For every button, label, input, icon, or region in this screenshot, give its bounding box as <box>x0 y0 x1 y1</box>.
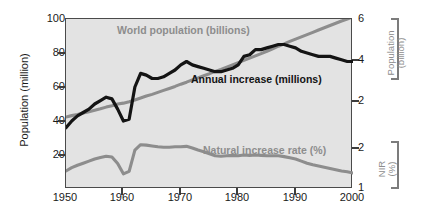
x-tick-1980: 1980 <box>214 191 260 203</box>
annotation-annual-increase: Annual increase (millions) <box>191 73 322 85</box>
right-axis-bottom-title-line2: (%) <box>386 162 397 177</box>
x-tick-1990: 1990 <box>272 191 318 203</box>
annotation-world-population: World population (billions) <box>117 24 250 36</box>
plot-area <box>65 18 352 188</box>
right-axis-bottom-title: NIR (%) <box>377 139 397 199</box>
right-axis-top-title-line2: (billion) <box>395 38 406 69</box>
x-tick-1970: 1970 <box>157 191 203 203</box>
y-tick-right-4: 4 <box>358 53 372 65</box>
y-tick-right-nir-2: 2 <box>358 141 372 153</box>
y-tick-right-6: 6 <box>358 12 372 24</box>
x-tick-1960: 1960 <box>99 191 145 203</box>
annotation-natural-increase-rate: Natural increase rate (%) <box>203 144 326 156</box>
x-tick-2000: 2000 <box>329 191 375 203</box>
y-tick-right-2: 2 <box>358 94 372 106</box>
population-growth-chart: Population (million) 100 80 60 40 20 6 4… <box>0 0 427 217</box>
series-line-annual-increase <box>66 45 353 128</box>
right-axis-top-title: Population (billion) <box>386 6 406 100</box>
plot-svg <box>66 19 353 189</box>
y-tick-left-100: 100 <box>25 12 65 24</box>
x-tick-1950: 1950 <box>42 191 88 203</box>
